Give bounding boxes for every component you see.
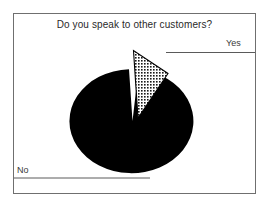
slice-label-no: No	[17, 165, 29, 175]
pie-graphic	[0, 0, 271, 211]
pie-chart-figure: Do you speak to other customers? Yes No	[0, 0, 271, 211]
pie-slice-no	[69, 69, 193, 173]
slice-label-yes: Yes	[226, 38, 241, 48]
